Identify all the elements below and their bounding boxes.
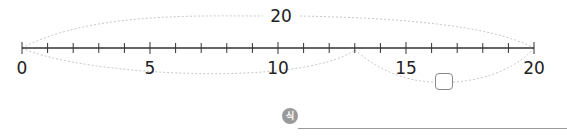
expression-badge: 식	[282, 108, 298, 124]
top-arc-right	[300, 16, 534, 48]
bottom-arc-0-13	[22, 48, 355, 74]
tick-label-5: 5	[145, 58, 156, 78]
top-arc-label: 20	[270, 6, 292, 26]
bottom-arc-13-20-right	[453, 48, 534, 82]
answer-box[interactable]	[435, 73, 453, 90]
tick-label-0: 0	[17, 58, 28, 78]
expression-answer-line[interactable]	[298, 128, 567, 129]
tick-label-20: 20	[523, 58, 545, 78]
tick-label-15: 15	[395, 58, 417, 78]
ticks	[22, 42, 534, 54]
tick-label-10: 10	[267, 58, 289, 78]
